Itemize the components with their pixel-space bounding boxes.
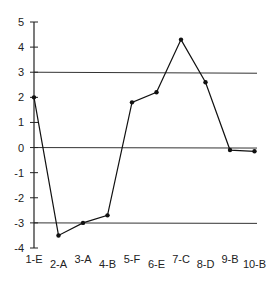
y-tick-label: -2 (14, 192, 24, 204)
x-tick-label: 6-E (148, 258, 165, 270)
y-tick-label: 3 (18, 66, 24, 78)
x-tick-label: 4-B (99, 258, 116, 270)
x-tick-label: 9-B (221, 253, 238, 265)
y-tick-label: 0 (18, 142, 24, 154)
data-point (252, 149, 256, 153)
x-tick-label: 8-D (197, 258, 215, 270)
x-tick-label: 5-F (124, 253, 141, 265)
data-point (56, 233, 60, 237)
reference-line-0 (34, 148, 257, 149)
x-tick-label: 7-C (172, 253, 190, 265)
y-axis: 543210-1-2-3-4 (14, 16, 38, 254)
y-tick-label: 4 (18, 41, 24, 53)
data-point (154, 90, 158, 94)
reference-lines (34, 72, 257, 223)
x-axis-labels: 1-E2-A3-A4-B5-F6-E7-C8-D9-B10-B (25, 253, 266, 270)
y-tick-label: -3 (14, 217, 24, 229)
y-tick-label: 1 (18, 116, 24, 128)
reference-line-3 (34, 72, 257, 73)
x-tick-label: 3-A (74, 253, 92, 265)
data-point (228, 148, 232, 152)
data-point (32, 95, 36, 99)
data-point (203, 80, 207, 84)
y-tick-label: 2 (18, 91, 24, 103)
data-series (32, 37, 257, 237)
line-chart: 543210-1-2-3-4 1-E2-A3-A4-B5-F6-E7-C8-D9… (0, 0, 277, 285)
y-tick-label: -4 (14, 242, 24, 254)
reference-line--3 (34, 223, 257, 224)
data-point (179, 37, 183, 41)
series-line (34, 40, 255, 236)
data-point (105, 213, 109, 217)
y-tick-label: 5 (18, 16, 24, 28)
data-point (81, 221, 85, 225)
x-tick-label: 2-A (50, 258, 68, 270)
x-tick-label: 10-B (243, 258, 266, 270)
y-tick-label: -1 (14, 167, 24, 179)
data-point (130, 100, 134, 104)
x-tick-label: 1-E (25, 253, 42, 265)
